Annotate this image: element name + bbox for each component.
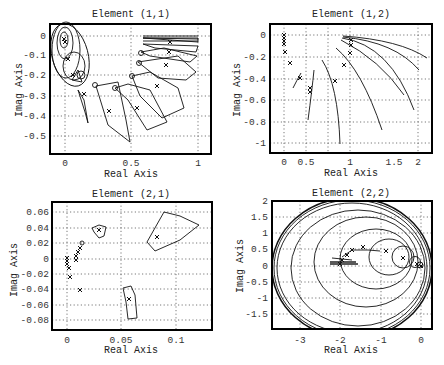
- svg-text:0.5: 0.5: [122, 158, 139, 169]
- y-axis-label: Imag Axis: [9, 243, 20, 297]
- y-axis-label: Imag Axis: [14, 63, 25, 117]
- nominal-points: [282, 33, 353, 94]
- svg-text:2: 2: [415, 157, 421, 168]
- x-axis-label: Real Axis: [104, 169, 158, 180]
- panel-title: Element (1,1): [92, 9, 170, 20]
- svg-text:0.5: 0.5: [297, 157, 314, 168]
- svg-text:0: 0: [281, 157, 287, 168]
- grid: [50, 24, 211, 154]
- svg-text:-0.4: -0.4: [243, 74, 266, 85]
- svg-text:0: 0: [418, 335, 424, 346]
- svg-text:-0.8: -0.8: [243, 117, 266, 128]
- svg-text:-3: -3: [294, 335, 306, 346]
- y-axis-label: Imag Axis: [232, 63, 243, 117]
- svg-text:0: 0: [43, 254, 49, 265]
- nominal-trace: [330, 250, 380, 264]
- svg-text:0: 0: [260, 30, 266, 41]
- y-tick-labels: 0 -0.1 -0.2 -0.3 -0.4 -0.5: [23, 31, 46, 142]
- x-axis-label: Real Axis: [324, 345, 378, 356]
- svg-text:1: 1: [347, 157, 353, 168]
- template-curves: [44, 19, 198, 142]
- svg-text:0: 0: [262, 261, 268, 272]
- svg-text:-1: -1: [257, 293, 269, 304]
- x-tick-labels: 0 0.5 1 1.5 2: [281, 157, 421, 168]
- svg-text:-0.6: -0.6: [243, 95, 266, 106]
- svg-text:-0.2: -0.2: [243, 52, 266, 63]
- svg-text:0.1: 0.1: [167, 335, 184, 346]
- svg-text:-0.02: -0.02: [20, 269, 49, 280]
- svg-text:-0.3: -0.3: [23, 91, 46, 102]
- svg-text:0.5: 0.5: [251, 244, 268, 255]
- svg-text:1.5: 1.5: [385, 157, 402, 168]
- svg-text:0.04: 0.04: [26, 223, 49, 234]
- panel-title: Element (2,2): [312, 188, 390, 199]
- svg-text:1.5: 1.5: [251, 212, 268, 223]
- template-arcs: [293, 36, 427, 144]
- axes-box: [50, 24, 211, 154]
- svg-text:-0.5: -0.5: [23, 131, 46, 142]
- svg-text:0: 0: [64, 335, 70, 346]
- nominal-points: [65, 228, 159, 301]
- panel-element-1-2: Element (1,2): [232, 9, 432, 179]
- grid: [52, 202, 212, 330]
- svg-text:-0.2: -0.2: [23, 70, 46, 81]
- y-tick-labels: 0.06 0.04 0.02 0 -0.02 -0.04 -0.06 -0.08: [20, 207, 49, 326]
- grid: [270, 24, 432, 153]
- panel-element-2-2: Element (2,2): [235, 188, 432, 356]
- svg-text:-0.4: -0.4: [23, 111, 46, 122]
- svg-text:0: 0: [62, 158, 68, 169]
- svg-text:0: 0: [40, 31, 46, 42]
- axes-box: [52, 202, 212, 330]
- x-axis-label: Real Axis: [104, 345, 158, 356]
- svg-text:0.02: 0.02: [26, 238, 49, 249]
- panel-element-2-1: Element (2,1): [9, 189, 212, 356]
- svg-text:-0.1: -0.1: [23, 50, 46, 61]
- svg-text:2: 2: [262, 196, 268, 207]
- svg-text:-0.5: -0.5: [245, 277, 268, 288]
- svg-text:-1.5: -1.5: [245, 309, 268, 320]
- panel-title: Element (2,1): [92, 189, 170, 200]
- svg-text:1: 1: [262, 228, 268, 239]
- axes-box: [270, 24, 432, 153]
- x-tick-labels: 0 0.5 1: [62, 158, 201, 169]
- uncertainty-circles: [272, 198, 432, 338]
- y-tick-labels: 2 1.5 1 0.5 0 -0.5 -1 -1.5: [245, 196, 268, 320]
- svg-text:-0.06: -0.06: [20, 300, 49, 311]
- y-tick-labels: 0 -0.2 -0.4 -0.6 -0.8 -1: [243, 30, 266, 149]
- svg-text:-1: -1: [255, 138, 267, 149]
- panel-title: Element (1,2): [312, 9, 390, 20]
- svg-text:0.06: 0.06: [26, 207, 49, 218]
- figure: Element (1,1): [0, 0, 444, 365]
- y-axis-label: Imag Axis: [235, 239, 246, 293]
- svg-text:1: 1: [195, 158, 201, 169]
- panel-element-1-1: Element (1,1): [14, 9, 211, 180]
- x-axis-label: Real Axis: [324, 168, 378, 179]
- svg-text:-0.08: -0.08: [20, 315, 49, 326]
- svg-text:-0.04: -0.04: [20, 284, 49, 295]
